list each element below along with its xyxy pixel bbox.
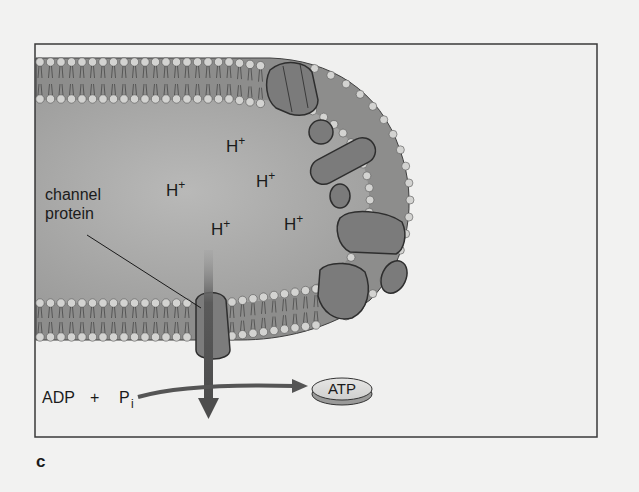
ion-charge: + (238, 134, 245, 148)
ion-charge: + (296, 212, 303, 226)
phosphate-subscript: i (131, 397, 134, 411)
small-oval-protein (330, 184, 350, 208)
plus-sign: + (90, 389, 99, 406)
large-globular-protein (337, 212, 405, 254)
channel-label-line1: channel (45, 186, 101, 203)
panel-label: c (36, 452, 45, 471)
atp-molecule: ATP (312, 378, 372, 405)
small-round-protein (309, 120, 333, 144)
adp-label: ADP (42, 389, 75, 406)
atp-label: ATP (328, 380, 356, 397)
phosphate-label: P (119, 389, 130, 406)
atp-synthase-complex (267, 63, 318, 116)
ion-charge: + (178, 178, 185, 192)
bottom-globular-protein (318, 263, 368, 318)
mitochondrion-atp-synthesis-diagram: ATP channel protein ADP + P i H+H+H+H+H+… (0, 0, 639, 492)
channel-label-line2: protein (45, 205, 94, 222)
ion-charge: + (223, 217, 230, 231)
ion-charge: + (268, 169, 275, 183)
